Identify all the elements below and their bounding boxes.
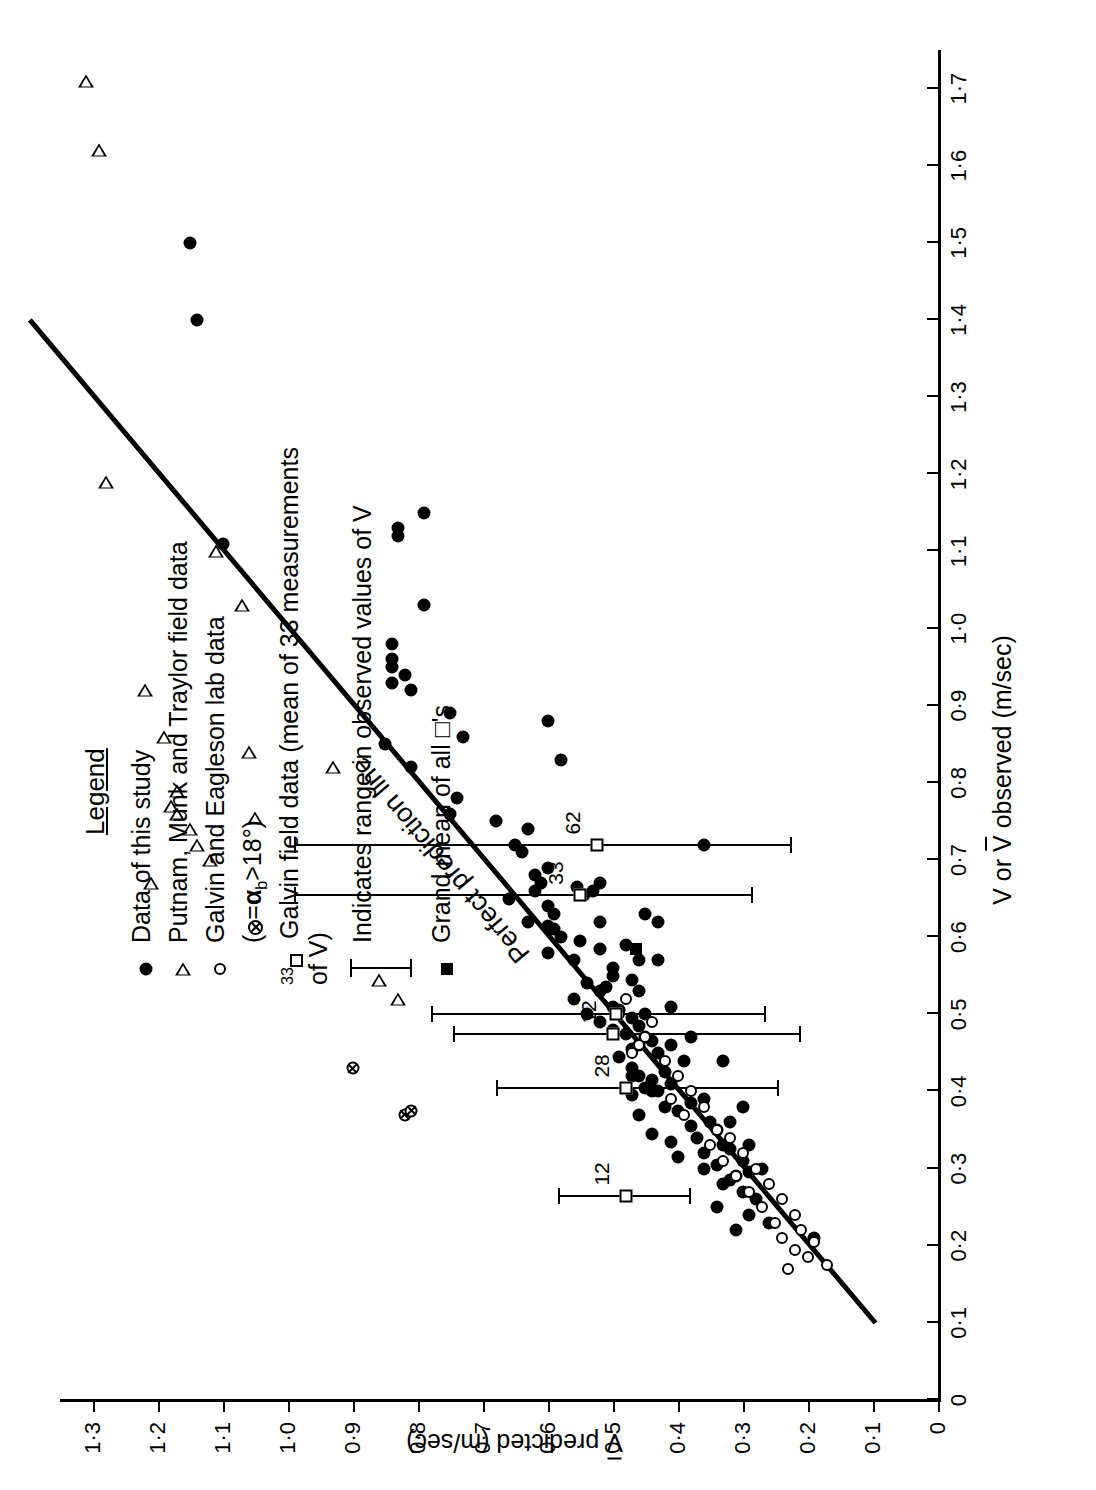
data-point-filled-circle	[717, 1054, 730, 1067]
data-point-filled-circle	[567, 954, 580, 967]
legend-item-putnam-munk-traylor: Putnam, Munk and Traylor field data	[164, 425, 198, 985]
crossed-circle-icon	[248, 920, 263, 935]
data-point-open-circle	[789, 1244, 801, 1256]
data-point-open-circle	[672, 1070, 684, 1082]
data-point-open-circle	[620, 993, 632, 1005]
data-point-filled-circle	[184, 236, 197, 249]
data-point-open-circle	[646, 1016, 658, 1028]
data-point-open-circle	[821, 1259, 833, 1271]
data-point-filled-circle	[645, 1085, 658, 1098]
data-point-open-circle	[776, 1232, 788, 1244]
plot-area: 00·10·20·30·40·50·60·70·80·91·01·11·21·3…	[0, 0, 1096, 1490]
data-point-filled-circle	[190, 314, 203, 327]
legend-item-galvin-field-data: 33 Galvin field data (mean of 33 measure…	[275, 425, 345, 985]
x-tick-label: 0·2	[946, 1230, 972, 1262]
data-point-open-circle	[776, 1193, 788, 1205]
data-point-filled-circle	[580, 977, 593, 990]
data-point-filled-circle	[671, 1151, 684, 1164]
x-tick-label: 0·9	[946, 690, 972, 722]
y-axis-title: V predicted (m/sec)	[345, 1428, 685, 1457]
y-tick-label: 1·0	[275, 1422, 301, 1470]
x-tick-label: 1·1	[946, 536, 972, 568]
data-point-filled-circle	[665, 1000, 678, 1013]
open-triangle-icon	[173, 951, 193, 979]
data-point-open-circle	[756, 1201, 768, 1213]
legend-alpha-sub: b	[253, 881, 270, 890]
data-point-filled-circle	[580, 1008, 593, 1021]
legend-label-6: Grand mean of all □'s	[427, 705, 455, 943]
data-point-filled-circle	[528, 884, 541, 897]
data-point-filled-circle	[502, 892, 515, 905]
data-point-open-circle	[763, 1178, 775, 1190]
y-tick	[93, 1401, 95, 1412]
data-point-filled-circle	[522, 823, 535, 836]
data-point-filled-circle	[652, 915, 665, 928]
x-tick-label: 0·7	[946, 844, 972, 876]
data-point-filled-circle	[593, 985, 606, 998]
x-tick-label: 0	[946, 1394, 972, 1406]
x-tick	[927, 781, 938, 783]
x-tick	[927, 395, 938, 397]
y-tick	[353, 1401, 355, 1412]
y-tick-label: 0·3	[730, 1422, 756, 1470]
x-tick	[927, 318, 938, 320]
data-point-filled-circle	[632, 954, 645, 967]
legend-label-5: Indicates range in observed values of V	[348, 505, 376, 943]
data-point-filled-circle	[684, 1097, 697, 1110]
legend-note-crossed-circle: (=αb>18°)	[238, 425, 272, 985]
data-point-filled-circle	[619, 1027, 632, 1040]
data-point-filled-circle	[691, 1131, 704, 1144]
data-point-open-triangle	[78, 74, 94, 87]
data-point-filled-circle	[515, 846, 528, 859]
data-point-filled-circle	[665, 1135, 678, 1148]
filled-circle-icon	[136, 951, 156, 979]
data-point-filled-circle	[593, 877, 606, 890]
data-point-filled-circle	[554, 753, 567, 766]
x-tick-label: 0·8	[946, 767, 972, 799]
data-point-filled-circle	[554, 931, 567, 944]
y-tick	[483, 1401, 485, 1412]
data-point-open-circle	[685, 1085, 697, 1097]
x-tick	[927, 1244, 938, 1246]
y-tick	[678, 1401, 680, 1412]
data-point-filled-circle	[645, 1127, 658, 1140]
y-tick-label: 0·1	[860, 1422, 886, 1470]
rotated-figure-container: 00·10·20·30·40·50·60·70·80·91·01·11·21·3…	[0, 0, 1096, 1490]
data-point-open-square	[619, 1081, 632, 1094]
figure-page: 00·10·20·30·40·50·60·70·80·91·01·11·21·3…	[0, 0, 1096, 1490]
data-point-open-square	[619, 1189, 632, 1202]
data-point-open-square	[610, 1008, 623, 1021]
y-tick	[743, 1401, 745, 1412]
legend-title: Legend	[80, 425, 111, 835]
data-point-open-circle	[724, 1132, 736, 1144]
data-point-filled-circle	[678, 1054, 691, 1067]
data-point-open-circle	[704, 1139, 716, 1151]
y-axis-title-vbar: V	[606, 1428, 623, 1457]
x-tick	[927, 1321, 938, 1323]
data-point-filled-circle	[567, 992, 580, 1005]
data-point-filled-circle	[736, 1100, 749, 1113]
data-point-filled-circle	[541, 861, 554, 874]
data-point-filled-circle	[541, 946, 554, 959]
data-point-filled-circle	[730, 1224, 743, 1237]
y-tick	[548, 1401, 550, 1412]
data-point-filled-circle	[743, 1208, 756, 1221]
data-point-filled-circle	[541, 715, 554, 728]
legend-item-range-bar: Indicates range in observed values of V	[348, 425, 424, 985]
x-tick-label: 0·1	[946, 1307, 972, 1339]
data-point-open-circle	[795, 1224, 807, 1236]
x-axis-title: V or V observed (m/sec)	[988, 635, 1017, 905]
data-point-crossed-circle	[346, 1062, 359, 1075]
x-tick	[927, 549, 938, 551]
data-point-filled-circle	[684, 1031, 697, 1044]
x-tick	[927, 1398, 938, 1400]
data-point-open-circle	[639, 1031, 651, 1043]
y-tick	[223, 1401, 225, 1412]
data-point-open-circle	[678, 1109, 690, 1121]
data-point-crossed-circle	[405, 1104, 418, 1117]
data-point-filled-circle	[710, 1201, 723, 1214]
data-point-filled-circle	[489, 815, 502, 828]
data-point-filled-circle	[574, 935, 587, 948]
data-point-open-circle	[802, 1251, 814, 1263]
y-tick	[613, 1401, 615, 1412]
